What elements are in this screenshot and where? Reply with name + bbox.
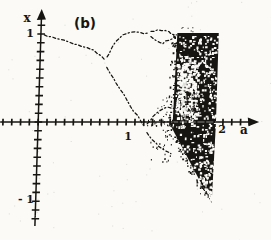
x-axis-label: a <box>240 123 248 137</box>
axes <box>0 9 263 226</box>
x-tick-label-2: 2 <box>218 123 226 136</box>
bifurcation-branches <box>41 30 176 154</box>
x-tick-label-1: 1 <box>124 130 132 143</box>
y-tick-label-neg1: - 1 <box>18 193 34 206</box>
panel-label: (b) <box>74 15 96 31</box>
y-axis-label: x <box>23 11 31 25</box>
y-tick-label-1: 1 <box>26 27 34 40</box>
bifurcation-figure: x 1 - 1 (b) 1 2 a <box>0 0 271 240</box>
y-axis-arrowhead <box>37 9 47 20</box>
plot-area <box>0 9 263 226</box>
chaotic-bands <box>142 27 221 203</box>
bifurcation-plot: x 1 - 1 (b) 1 2 a <box>0 0 271 240</box>
